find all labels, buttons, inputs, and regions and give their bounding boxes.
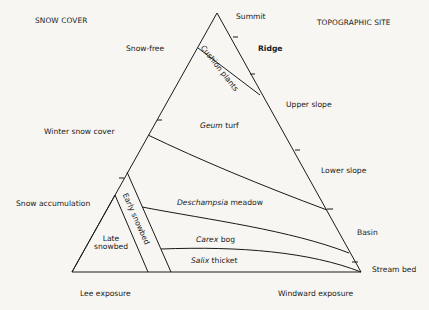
carex-genus: Carex — [196, 235, 218, 244]
salix-thicket-label: Salix thicket — [191, 257, 237, 265]
summit-label: Summit — [236, 13, 266, 21]
late-snowbed-label: Late snowbed — [91, 235, 131, 252]
deschampsia-genus: Deschampsia — [177, 198, 228, 207]
deschampsia-rest: meadow — [228, 198, 263, 207]
carex-bog-label: Carex bog — [196, 236, 235, 244]
carex-rest: bog — [218, 235, 235, 244]
winter-snow-cover-label: Winter snow cover — [44, 128, 115, 136]
snow-free-label: Snow-free — [126, 45, 164, 53]
geum-turf-label: Geum turf — [200, 122, 239, 130]
lower-slope-label: Lower slope — [321, 167, 366, 175]
ridge-label: Ridge — [258, 45, 282, 53]
upper-slope-label: Upper slope — [286, 101, 332, 109]
windward-exposure-label: Windward exposure — [278, 290, 353, 298]
snow-accumulation-label: Snow accumulation — [16, 200, 52, 208]
geum-rest: turf — [223, 121, 239, 130]
stream-bed-label: Stream bed — [372, 266, 416, 274]
snow-accumulation-text: Snow accumulation — [16, 199, 90, 208]
snow-cover-title: SNOW COVER — [35, 17, 87, 25]
topographic-site-title: TOPOGRAPHIC SITE — [317, 19, 391, 27]
late-snowbed-line2: snowbed — [91, 243, 131, 251]
salix-rest: thicket — [209, 256, 237, 265]
salix-genus: Salix — [191, 256, 209, 265]
lee-exposure-label: Lee exposure — [80, 290, 131, 298]
deschampsia-meadow-label: Deschampsia meadow — [177, 199, 263, 207]
geum-genus: Geum — [200, 121, 223, 130]
basin-label: Basin — [357, 229, 378, 237]
deschampsia-carex-boundary — [142, 207, 349, 253]
